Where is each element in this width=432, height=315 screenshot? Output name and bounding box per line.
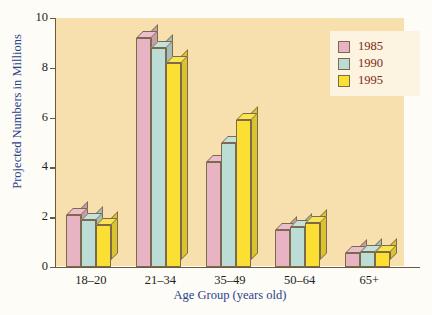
y-axis-line (55, 18, 56, 268)
bar-3549-1985 (206, 162, 221, 267)
legend-swatch-icon (338, 41, 350, 53)
legend-item: 1990 (338, 55, 414, 72)
x-tick-label: 65+ (334, 273, 404, 288)
chart-figure: 0246810 18–2021–3435–4950–6465+ Projecte… (0, 0, 432, 315)
chart-legend: 198519901995 (330, 31, 420, 96)
bar-side-face (251, 106, 258, 260)
legend-swatch-icon (338, 75, 350, 87)
x-tick-label: 50–64 (265, 273, 335, 288)
y-tick-label: 0 (6, 259, 48, 274)
bar-side-face (181, 49, 188, 260)
legend-swatch-icon (338, 58, 350, 70)
x-tick-label: 35–49 (195, 273, 265, 288)
x-tick-label: 21–34 (126, 273, 196, 288)
y-tick-mark (50, 118, 56, 119)
legend-label: 1990 (358, 56, 383, 71)
y-tick-mark (50, 267, 56, 268)
y-tick-label: 2 (6, 209, 48, 224)
bar-1820-1990 (81, 220, 96, 267)
bar-65+-1985 (345, 253, 360, 267)
y-tick-mark (50, 68, 56, 69)
y-tick-mark (50, 18, 56, 19)
bar-65+-1990 (360, 252, 375, 267)
bar-1820-1985 (66, 215, 81, 267)
y-tick-mark (50, 167, 56, 168)
legend-item: 1985 (338, 38, 414, 55)
bar-5064-1995 (305, 223, 320, 267)
legend-item: 1995 (338, 72, 414, 89)
bar-2134-1990 (151, 48, 166, 267)
x-axis-line (55, 267, 420, 268)
bar-1820-1995 (96, 225, 111, 267)
y-tick-mark (50, 217, 56, 218)
bar-3549-1995 (236, 120, 251, 267)
x-tick-label: 18–20 (56, 273, 126, 288)
bar-2134-1995 (166, 63, 181, 267)
bar-5064-1990 (290, 227, 305, 267)
bar-3549-1990 (221, 143, 236, 268)
bar-65+-1995 (375, 252, 390, 267)
legend-label: 1995 (358, 73, 383, 88)
y-axis-title: Projected Numbers in Millions (10, 17, 25, 207)
bar-5064-1985 (275, 230, 290, 267)
x-axis-title: Age Group (years old) (56, 288, 404, 303)
legend-label: 1985 (358, 39, 383, 54)
bar-2134-1985 (136, 38, 151, 267)
